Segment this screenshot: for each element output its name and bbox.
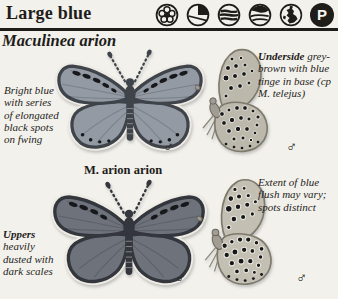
wetland-habitat-icon (217, 3, 241, 27)
britain-distribution-icon (279, 3, 303, 27)
habitat-icon-row: P (155, 3, 334, 27)
field-guide-page: Large blue (0, 0, 338, 299)
subspecies-label: M. arion arion (84, 163, 162, 178)
river-habitat-icon (248, 3, 272, 27)
page-title: Large blue (6, 3, 92, 24)
male-symbol: ♂ (163, 139, 174, 156)
caption-underside: Underside grey-brown with blue tinge in … (258, 50, 335, 99)
caption-uppers-rest: heavily dusted with dark scales (3, 240, 53, 277)
upperside-bright-blue-butterfly-illustration (54, 48, 206, 159)
caption-uppers-lead: Uppers (3, 228, 35, 240)
protected-status-icon: P (310, 3, 334, 27)
male-symbol: ♂ (296, 270, 307, 287)
coastal-slope-habitat-icon (186, 3, 210, 27)
male-symbol: ♂ (286, 139, 297, 156)
flower-habitat-icon (155, 3, 179, 27)
male-symbol: ♂ (175, 270, 186, 287)
caption-blue-flush: Extent of blue flush may vary; spots dis… (258, 176, 336, 213)
caption-underside-lead: Underside (258, 50, 304, 62)
